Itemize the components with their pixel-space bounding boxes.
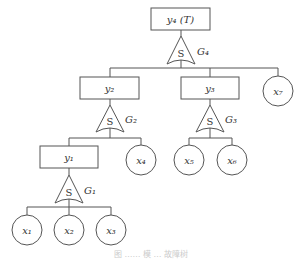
gate-g3-symbol: S <box>207 116 214 127</box>
x1-label: x₁ <box>22 225 32 236</box>
top-event-label: y₄ (T) <box>166 14 194 25</box>
gate-g4-label: G₄ <box>197 46 209 57</box>
gate-g4-symbol: S <box>178 48 185 59</box>
gate-g2-symbol: S <box>107 116 114 127</box>
x5-label: x₅ <box>184 155 194 166</box>
x6-label: x₆ <box>227 155 237 166</box>
figure-caption: 图 …… 模 … 故障树 <box>114 249 188 259</box>
x2-label: x₂ <box>64 225 74 236</box>
x4-label: x₄ <box>136 155 146 166</box>
y1-label: y₁ <box>63 152 74 163</box>
y2-label: y₂ <box>104 83 115 94</box>
x3-label: x₃ <box>106 225 116 236</box>
gate-g2-label: G₂ <box>125 114 137 125</box>
gate-g3-label: G₃ <box>225 114 237 125</box>
gate-g1-symbol: S <box>66 187 73 198</box>
x7-label: x₇ <box>273 86 283 97</box>
fault-tree-diagram: y₄ (T) y₂ y₃ y₁ x₇ x₄ x₅ x₆ x₁ x₂ x₃ S G… <box>0 0 303 259</box>
gate-g1-label: G₁ <box>84 185 96 196</box>
y3-label: y₃ <box>204 83 215 94</box>
